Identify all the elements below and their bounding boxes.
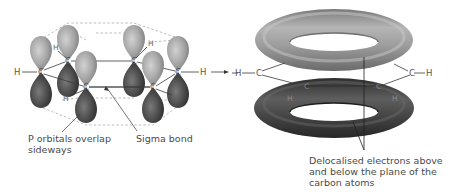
label-p-orbitals-line2: sideways xyxy=(28,144,72,155)
left-panel-orbitals: H C H C C H C H C H C H xyxy=(14,23,206,132)
atom-h-upper-right: H xyxy=(148,39,154,48)
atom-c-left-right-panel: C xyxy=(256,68,262,78)
atom-c-front-left-right-panel: C xyxy=(304,82,309,91)
atom-c-left: C xyxy=(38,67,44,77)
label-delocalised-line2: and below the plane of the xyxy=(309,166,437,177)
atom-h-upper-left: H xyxy=(53,43,59,52)
atom-h-left: H xyxy=(14,67,20,77)
atom-h-front-right-right-panel: H xyxy=(392,94,398,103)
atom-c-right-right-panel: C xyxy=(409,68,415,78)
atom-c-upper-left: C xyxy=(65,56,71,66)
atom-c-upper-right: C xyxy=(131,56,137,66)
atom-h-front-right: H xyxy=(173,93,179,102)
label-p-orbitals-line1: P orbitals overlap xyxy=(28,133,111,144)
atom-h-front-left: H xyxy=(63,94,69,103)
right-panel-rings: H C C H C H C H xyxy=(232,9,432,150)
atom-h-right: H xyxy=(200,67,206,77)
atom-h-left-right-panel: H xyxy=(235,68,241,78)
atom-c-front-right-right-panel: C xyxy=(376,82,381,91)
transition-arrow xyxy=(211,70,229,74)
upper-electron-ring xyxy=(255,9,413,71)
label-delocalised-line1: Delocalised electrons above xyxy=(309,155,443,166)
atom-c-right: C xyxy=(175,67,181,77)
atom-c-front-right: C xyxy=(150,82,156,92)
atom-h-front-left-right-panel: H xyxy=(287,94,293,103)
atom-h-right-right-panel: H xyxy=(426,68,432,78)
arrow-right-icon xyxy=(224,70,229,74)
lower-electron-ring xyxy=(254,78,414,138)
label-delocalised-line3: carbon atoms xyxy=(309,177,374,188)
atom-c-front-left: C xyxy=(83,82,89,92)
label-sigma-bond: Sigma bond xyxy=(136,133,193,144)
benzene-bonding-diagram: H C H C C H C H C H C H xyxy=(0,0,450,195)
